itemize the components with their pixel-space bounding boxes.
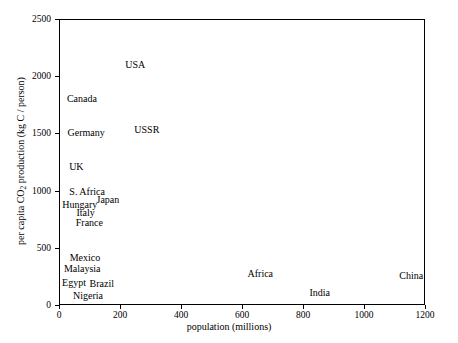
y-axis-title-subscript: 2 — [19, 186, 28, 190]
x-tick-mark — [120, 305, 121, 309]
y-tick-mark — [55, 76, 59, 77]
data-point-label: Malaysia — [64, 264, 101, 274]
data-point-label: Brazil — [90, 279, 114, 289]
y-axis-title: per capita CO2 production (kg C / person… — [15, 36, 27, 286]
y-tick-label: 500 — [37, 243, 51, 253]
plot-area: USACanadaGermanyUSSRUKS. AfricaJapanHung… — [59, 19, 425, 305]
chart-figure: USACanadaGermanyUSSRUKS. AfricaJapanHung… — [0, 0, 458, 343]
data-point-label: USSR — [134, 125, 159, 135]
x-tick-label: 800 — [296, 310, 310, 320]
x-tick-label: 1000 — [355, 310, 374, 320]
x-tick-mark — [425, 305, 426, 309]
y-tick-mark — [55, 19, 59, 20]
y-tick-label: 1500 — [32, 128, 51, 138]
data-point-label: France — [76, 218, 103, 228]
x-tick-mark — [303, 305, 304, 309]
data-point-label: UK — [69, 162, 83, 172]
y-axis-title-suffix: production (kg C / person) — [15, 77, 26, 186]
data-point-label: India — [309, 288, 330, 298]
y-tick-label: 2000 — [32, 71, 51, 81]
x-tick-mark — [181, 305, 182, 309]
y-tick-mark — [55, 133, 59, 134]
y-tick-mark — [55, 248, 59, 249]
x-tick-mark — [59, 305, 60, 309]
y-tick-mark — [55, 191, 59, 192]
y-tick-mark — [55, 305, 59, 306]
data-point-label: Nigeria — [73, 291, 103, 301]
data-point-label: Canada — [67, 94, 97, 104]
data-point-label: Germany — [68, 128, 105, 138]
data-point-label: China — [399, 271, 423, 281]
x-tick-label: 1200 — [416, 310, 435, 320]
y-axis-title-prefix: per capita CO — [15, 189, 26, 245]
x-tick-label: 600 — [235, 310, 249, 320]
data-point-label: Egypt — [62, 278, 86, 288]
x-tick-mark — [242, 305, 243, 309]
data-point-label: USA — [125, 60, 145, 70]
data-point-label: Japan — [97, 195, 120, 205]
y-tick-label: 2500 — [32, 14, 51, 24]
x-tick-label: 0 — [57, 310, 62, 320]
y-tick-label: 0 — [46, 300, 51, 310]
x-tick-mark — [364, 305, 365, 309]
y-tick-label: 1000 — [32, 186, 51, 196]
x-tick-label: 400 — [174, 310, 188, 320]
data-point-label: Africa — [248, 269, 274, 279]
x-axis-title: population (millions) — [0, 321, 458, 332]
x-tick-label: 200 — [113, 310, 127, 320]
data-point-label: Mexico — [70, 253, 101, 263]
